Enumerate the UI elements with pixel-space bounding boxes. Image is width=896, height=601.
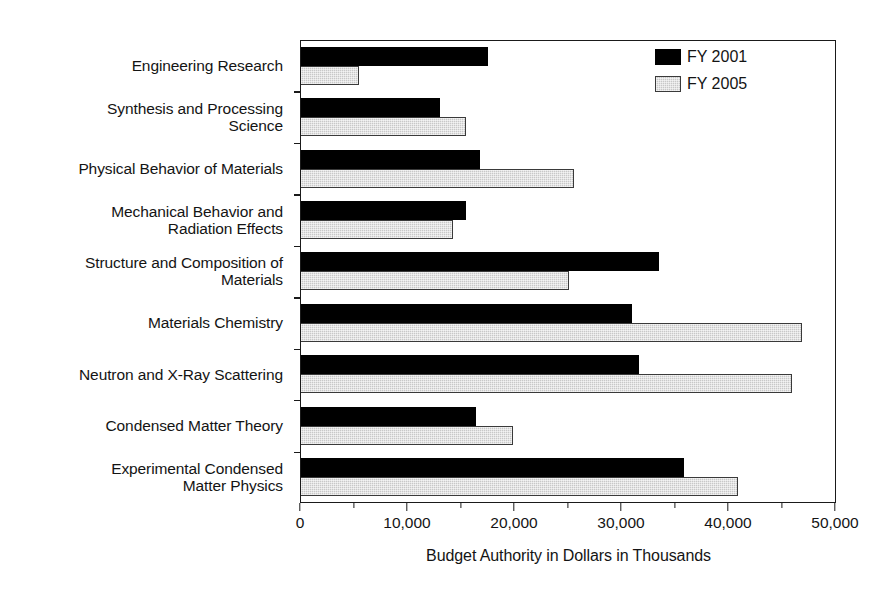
- bar-group: [301, 349, 836, 400]
- bar-1: [301, 374, 792, 393]
- y-axis-tick: [294, 452, 301, 453]
- bar-0: [301, 98, 440, 117]
- bar-group: [301, 194, 836, 245]
- y-axis-tick: [294, 246, 301, 247]
- bar-0: [301, 150, 480, 169]
- x-axis-minor-tick: [674, 503, 675, 508]
- category-label-line: Matter Physics: [111, 477, 283, 495]
- bars-layer: [301, 40, 836, 503]
- bar-1: [301, 271, 569, 290]
- category-label: Neutron and X-Ray Scattering: [0, 349, 292, 400]
- bar-1: [301, 220, 453, 239]
- bar-1: [301, 169, 574, 188]
- bar-1: [301, 117, 466, 136]
- x-axis-tick-label: 20,000: [490, 514, 537, 532]
- legend-swatch: [655, 49, 681, 65]
- category-label-line: Materials Chemistry: [148, 314, 283, 332]
- bar-group: [301, 143, 836, 194]
- x-axis-minor-tick: [567, 503, 568, 508]
- bar-group: [301, 40, 836, 91]
- x-axis-minor-tick: [353, 503, 354, 508]
- category-label-line: Structure and Composition of: [85, 254, 283, 272]
- legend-label: FY 2005: [687, 75, 747, 93]
- legend-item: FY 2005: [655, 75, 747, 93]
- bar-0: [301, 304, 632, 323]
- x-axis-tick: [834, 503, 835, 511]
- bar-0: [301, 458, 684, 477]
- category-axis: Engineering ResearchSynthesis and Proces…: [0, 40, 292, 503]
- x-axis-minor-tick: [460, 503, 461, 508]
- category-label: Engineering Research: [0, 40, 292, 91]
- legend-label: FY 2001: [687, 48, 747, 66]
- y-axis-tick: [294, 194, 301, 195]
- x-axis-tick: [513, 503, 514, 511]
- bar-chart: Engineering ResearchSynthesis and Proces…: [0, 0, 896, 601]
- x-axis-tick-label: 40,000: [704, 514, 751, 532]
- legend-item: FY 2001: [655, 48, 747, 66]
- category-label-line: Radiation Effects: [111, 220, 283, 238]
- category-label-line: Condensed Matter Theory: [106, 417, 284, 435]
- category-label-line: Neutron and X-Ray Scattering: [79, 366, 283, 384]
- bar-0: [301, 201, 466, 220]
- x-axis-tick: [620, 503, 621, 511]
- bar-group: [301, 452, 836, 503]
- category-label: Synthesis and ProcessingScience: [0, 91, 292, 142]
- x-axis-tick: [406, 503, 407, 511]
- category-label-line: Science: [107, 117, 283, 135]
- y-axis-tick: [294, 297, 301, 298]
- x-axis: 010,00020,00030,00040,00050,000: [300, 503, 837, 504]
- bar-0: [301, 252, 659, 271]
- category-label-line: Mechanical Behavior and: [111, 203, 283, 221]
- x-axis-tick-label: 50,000: [811, 514, 858, 532]
- category-label: Structure and Composition ofMaterials: [0, 246, 292, 297]
- bar-1: [301, 66, 359, 85]
- category-label-line: Materials: [85, 271, 283, 289]
- bar-0: [301, 407, 476, 426]
- bar-1: [301, 323, 802, 342]
- x-axis-tick-label: 10,000: [383, 514, 430, 532]
- bar-1: [301, 477, 738, 496]
- x-axis-minor-tick: [781, 503, 782, 508]
- y-axis-tick: [294, 91, 301, 92]
- bar-group: [301, 246, 836, 297]
- category-label: Experimental CondensedMatter Physics: [0, 452, 292, 503]
- category-label: Physical Behavior of Materials: [0, 143, 292, 194]
- y-axis-tick: [294, 349, 301, 350]
- x-axis-title: Budget Authority in Dollars in Thousands: [300, 547, 837, 565]
- category-label: Materials Chemistry: [0, 297, 292, 348]
- y-axis-tick: [294, 400, 301, 401]
- bar-1: [301, 426, 513, 445]
- bar-0: [301, 47, 488, 66]
- category-label-line: Experimental Condensed: [111, 460, 283, 478]
- x-axis-tick: [727, 503, 728, 511]
- chart-legend: FY 2001FY 2005: [655, 48, 747, 93]
- bar-group: [301, 297, 836, 348]
- y-axis-tick: [294, 143, 301, 144]
- x-axis-tick: [299, 503, 300, 511]
- bar-0: [301, 355, 639, 374]
- bar-group: [301, 91, 836, 142]
- x-axis-tick-label: 30,000: [597, 514, 644, 532]
- x-axis-tick-label: 0: [296, 514, 305, 532]
- category-label-line: Synthesis and Processing: [107, 100, 283, 118]
- category-label-line: Physical Behavior of Materials: [78, 160, 283, 178]
- category-label: Condensed Matter Theory: [0, 400, 292, 451]
- category-label-line: Engineering Research: [132, 57, 283, 75]
- legend-swatch: [655, 76, 681, 92]
- bar-group: [301, 400, 836, 451]
- category-label: Mechanical Behavior andRadiation Effects: [0, 194, 292, 245]
